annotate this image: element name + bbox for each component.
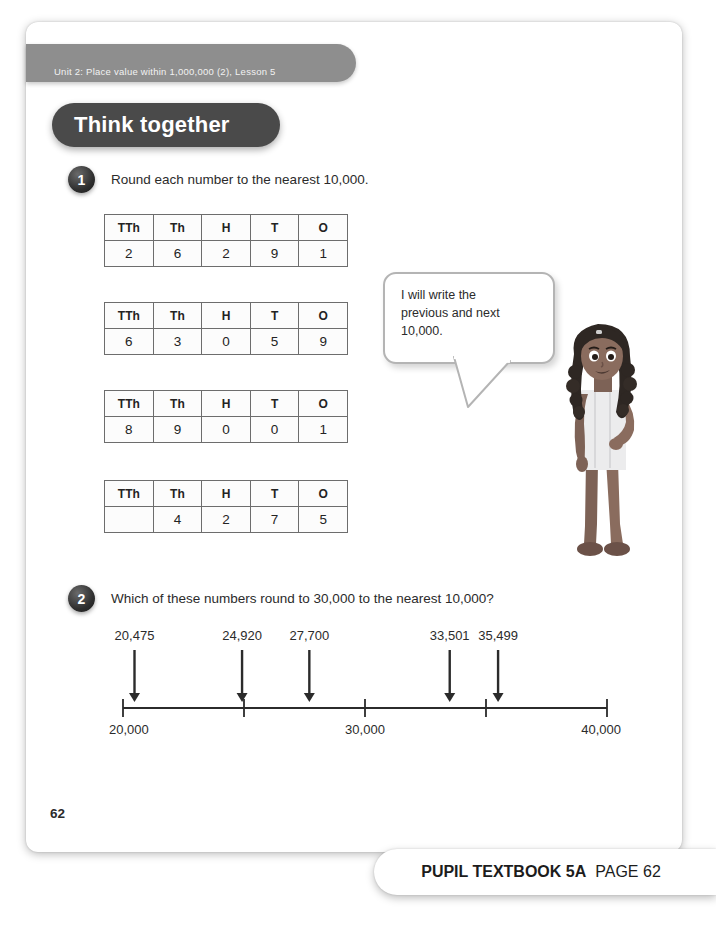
digit-cell: 1 xyxy=(299,417,348,443)
column-header: Th xyxy=(153,303,202,329)
column-header: TTh xyxy=(105,215,154,241)
digit-cell: 0 xyxy=(202,417,251,443)
digit-cell: 9 xyxy=(299,329,348,355)
number-line-marker-label: 35,499 xyxy=(478,628,518,643)
column-header: Th xyxy=(153,481,202,507)
place-value-table-3: TTh Th H T O 8 9 0 0 1 xyxy=(104,390,348,443)
section-title-pill: Think together xyxy=(52,103,280,147)
number-line-axis-label: 20,000 xyxy=(109,722,149,737)
place-value-table-4: TTh Th H T O 4 2 7 5 xyxy=(104,480,348,533)
column-header: T xyxy=(250,481,299,507)
page-number: 62 xyxy=(50,806,65,821)
digit-cell: 9 xyxy=(250,241,299,267)
question-prompt-2: Which of these numbers round to 30,000 t… xyxy=(111,591,494,606)
column-header: O xyxy=(299,215,348,241)
number-line-axis-label: 30,000 xyxy=(345,722,385,737)
table-row: 4 2 7 5 xyxy=(105,507,348,533)
column-header: Th xyxy=(153,215,202,241)
digit-cell-empty xyxy=(105,507,154,533)
table-header-row: TTh Th H T O xyxy=(105,215,348,241)
digit-cell: 5 xyxy=(250,329,299,355)
number-line-marker-label: 27,700 xyxy=(289,628,329,643)
table-row: 6 3 0 5 9 xyxy=(105,329,348,355)
footer-text-group: PUPIL TEXTBOOK 5A PAGE 62 xyxy=(374,849,716,895)
footer-book-title: PUPIL TEXTBOOK 5A xyxy=(421,863,586,881)
column-header: TTh xyxy=(105,303,154,329)
column-header: H xyxy=(202,215,251,241)
column-header: H xyxy=(202,303,251,329)
number-line-marker-label: 20,475 xyxy=(115,628,155,643)
number-line-svg: 20,47524,92027,70033,50135,49920,00030,0… xyxy=(95,620,640,740)
number-line-axis-label: 40,000 xyxy=(581,722,621,737)
question-prompt-1: Round each number to the nearest 10,000. xyxy=(111,172,368,187)
table-header-row: TTh Th H T O xyxy=(105,303,348,329)
section-title-text: Think together xyxy=(52,103,280,147)
digit-cell: 5 xyxy=(299,507,348,533)
column-header: O xyxy=(299,303,348,329)
column-header: O xyxy=(299,391,348,417)
digit-cell: 3 xyxy=(153,329,202,355)
digit-cell: 4 xyxy=(153,507,202,533)
table-row: 2 6 2 9 1 xyxy=(105,241,348,267)
footer-page-label: PAGE 62 xyxy=(595,863,661,881)
digit-cell: 8 xyxy=(105,417,154,443)
digit-cell: 9 xyxy=(153,417,202,443)
footer-tab: PUPIL TEXTBOOK 5A PAGE 62 xyxy=(374,849,716,895)
column-header: T xyxy=(250,391,299,417)
speech-bubble-text: I will write the previous and next 10,00… xyxy=(401,287,543,340)
digit-cell: 0 xyxy=(202,329,251,355)
place-value-table-2: TTh Th H T O 6 3 0 5 9 xyxy=(104,302,348,355)
place-value-table-1: TTh Th H T O 2 6 2 9 1 xyxy=(104,214,348,267)
unit-banner-text: Unit 2: Place value within 1,000,000 (2)… xyxy=(54,66,276,77)
number-line-marker-label: 24,920 xyxy=(222,628,262,643)
digit-cell: 6 xyxy=(153,241,202,267)
unit-banner: Unit 2: Place value within 1,000,000 (2)… xyxy=(26,44,356,82)
digit-cell: 2 xyxy=(202,507,251,533)
digit-cell: 2 xyxy=(202,241,251,267)
question-number-2: 2 xyxy=(68,585,95,612)
table-header-row: TTh Th H T O xyxy=(105,391,348,417)
column-header: O xyxy=(299,481,348,507)
column-header: H xyxy=(202,481,251,507)
number-line-marker-label: 33,501 xyxy=(430,628,470,643)
question-number-1: 1 xyxy=(68,166,95,193)
number-line-chart: 20,47524,92027,70033,50135,49920,00030,0… xyxy=(95,620,640,740)
character-illustration-girl xyxy=(540,312,658,562)
column-header: H xyxy=(202,391,251,417)
column-header: T xyxy=(250,303,299,329)
column-header: Th xyxy=(153,391,202,417)
digit-cell: 2 xyxy=(105,241,154,267)
table-row: 8 9 0 0 1 xyxy=(105,417,348,443)
digit-cell: 0 xyxy=(250,417,299,443)
digit-cell: 6 xyxy=(105,329,154,355)
column-header: T xyxy=(250,215,299,241)
column-header: TTh xyxy=(105,391,154,417)
textbook-page: Unit 2: Place value within 1,000,000 (2)… xyxy=(0,0,716,942)
speech-bubble: I will write the previous and next 10,00… xyxy=(383,272,555,364)
digit-cell: 1 xyxy=(299,241,348,267)
table-header-row: TTh Th H T O xyxy=(105,481,348,507)
column-header: TTh xyxy=(105,481,154,507)
digit-cell: 7 xyxy=(250,507,299,533)
